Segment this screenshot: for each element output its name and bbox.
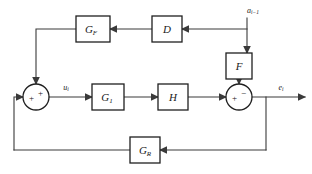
wire-feedback-up-to-sum [14,97,23,150]
block-d[interactable]: D [152,16,182,42]
wire-gf-to-sum-left [36,29,76,84]
arrow-output-icon [298,93,306,101]
sum-left-circle [23,84,49,110]
summing-junction-right[interactable]: + − [226,84,252,110]
signal-label-disturbance-input: ai−1 [247,6,259,16]
block-f[interactable]: F [226,53,252,79]
diagram-canvas: GF D F G1 H [0,0,312,174]
sum-right-circle [226,84,252,110]
block-gr[interactable]: GR [130,137,160,163]
signal-label-control-signal: ui [63,83,69,93]
block-d-label: D [162,23,171,35]
sum-left-sign-2: + [38,88,43,98]
block-h[interactable]: H [158,84,188,110]
block-f-label: F [235,60,243,72]
sum-right-sign-1: + [232,93,237,103]
block-diagram-figure: GF D F G1 H [0,0,312,174]
signal-label-output-signal: ei [278,83,284,93]
summing-junction-left[interactable]: + + [23,84,49,110]
block-g1[interactable]: G1 [92,84,124,110]
sum-left-sign-1: + [29,93,34,103]
sum-right-sign-2: − [241,88,246,98]
block-h-label: H [168,91,178,103]
block-gf[interactable]: GF [76,16,110,42]
